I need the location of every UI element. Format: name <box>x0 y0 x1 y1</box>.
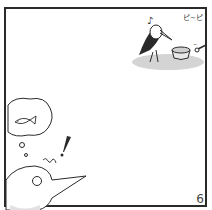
page-number: 6 <box>196 192 204 206</box>
whistle-icon: ~ <box>193 41 206 52</box>
music-note-icon: ♪ <box>147 15 153 26</box>
big-bird-head-icon <box>6 166 86 210</box>
svg-text:~: ~ <box>193 41 197 47</box>
exclamation-icon <box>61 136 72 157</box>
comic-artwork: ~ ♪ ピ~ピ <box>0 0 212 210</box>
thought-bubble <box>8 98 52 156</box>
surprise-squiggle-icon <box>43 159 56 163</box>
bowl-icon <box>172 47 190 60</box>
ground-shadow <box>132 54 204 70</box>
sound-effect-text: ピ~ピ <box>183 14 203 22</box>
